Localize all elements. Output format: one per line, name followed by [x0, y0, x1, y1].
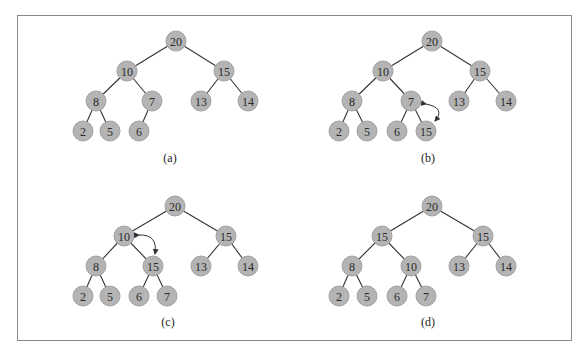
heap-node: 6 — [129, 121, 149, 141]
heap-node: 2 — [73, 121, 93, 141]
heap-node: 2 — [329, 286, 349, 306]
heap-node: 13 — [449, 91, 469, 111]
heap-node: 13 — [191, 256, 211, 276]
panel-caption: (a) — [163, 151, 176, 165]
heap-panel-a: 201015871314256(a) — [73, 31, 258, 165]
node-value: 20 — [426, 35, 438, 49]
node-value: 15 — [220, 230, 232, 244]
node-value: 15 — [474, 65, 486, 79]
node-value: 5 — [107, 290, 113, 304]
heap-node: 13 — [449, 256, 469, 276]
node-value: 10 — [377, 65, 389, 79]
heap-node: 8 — [342, 91, 362, 111]
heap-node: 15 — [143, 256, 163, 276]
panel-caption: (d) — [421, 315, 435, 329]
heap-node: 10 — [114, 226, 134, 246]
heap-node: 5 — [357, 121, 377, 141]
heap-node: 10 — [373, 61, 393, 81]
node-value: 2 — [80, 125, 86, 139]
node-value: 2 — [336, 290, 342, 304]
heap-node: 7 — [401, 91, 421, 111]
heap-panel-d: 20151581013142567(d) — [329, 196, 516, 329]
node-value: 2 — [80, 290, 86, 304]
node-value: 10 — [121, 65, 133, 79]
node-value: 14 — [500, 95, 512, 109]
heap-node: 6 — [387, 286, 407, 306]
node-value: 13 — [195, 260, 207, 274]
node-value: 15 — [477, 230, 489, 244]
node-value: 5 — [364, 290, 370, 304]
heap-node: 7 — [157, 286, 177, 306]
node-value: 13 — [453, 95, 465, 109]
node-value: 5 — [107, 125, 113, 139]
heap-node: 2 — [73, 286, 93, 306]
panel-caption: (b) — [421, 151, 435, 165]
node-value: 14 — [242, 260, 254, 274]
node-value: 7 — [408, 95, 414, 109]
node-value: 7 — [423, 290, 429, 304]
node-value: 6 — [136, 125, 142, 139]
node-value: 8 — [349, 260, 355, 274]
node-value: 7 — [164, 290, 170, 304]
heap-node: 14 — [238, 91, 258, 111]
heap-panel-b: 20101587131425615(b) — [329, 31, 516, 165]
node-value: 8 — [93, 260, 99, 274]
node-value: 20 — [169, 200, 181, 214]
swap-arrow-icon — [426, 104, 439, 121]
node-value: 10 — [405, 260, 417, 274]
node-value: 15 — [147, 260, 159, 274]
node-value: 8 — [93, 95, 99, 109]
node-value: 14 — [242, 95, 254, 109]
heap-node: 2 — [329, 121, 349, 141]
heap-node: 15 — [216, 226, 236, 246]
node-value: 15 — [376, 230, 388, 244]
node-value: 13 — [195, 95, 207, 109]
heap-node: 7 — [142, 91, 162, 111]
heap-node: 15 — [416, 121, 436, 141]
panel-caption: (c) — [161, 315, 174, 329]
node-value: 15 — [420, 125, 432, 139]
heap-node: 15 — [470, 61, 490, 81]
node-value: 7 — [149, 95, 155, 109]
heap-node: 14 — [496, 91, 516, 111]
heap-node: 6 — [129, 286, 149, 306]
heap-node: 14 — [496, 256, 516, 276]
node-value: 2 — [336, 125, 342, 139]
heap-node: 20 — [422, 31, 442, 51]
heap-node: 20 — [166, 31, 186, 51]
node-value: 5 — [364, 125, 370, 139]
node-value: 15 — [218, 65, 230, 79]
node-value: 8 — [349, 95, 355, 109]
heap-node: 20 — [165, 196, 185, 216]
heap-node: 8 — [86, 91, 106, 111]
heap-node: 13 — [191, 91, 211, 111]
heap-node: 5 — [100, 121, 120, 141]
node-value: 6 — [136, 290, 142, 304]
heap-node: 6 — [387, 121, 407, 141]
heap-node: 15 — [473, 226, 493, 246]
heap-node: 5 — [100, 286, 120, 306]
node-value: 20 — [426, 200, 438, 214]
node-value: 14 — [500, 260, 512, 274]
heap-node: 15 — [214, 61, 234, 81]
node-value: 6 — [394, 290, 400, 304]
heap-node: 10 — [117, 61, 137, 81]
heap-node: 8 — [86, 256, 106, 276]
node-value: 20 — [170, 35, 182, 49]
swap-arrow-icon — [139, 235, 155, 254]
heap-panel-c: 20101581513142567(c) — [73, 196, 258, 329]
heap-node: 15 — [372, 226, 392, 246]
heap-diagram: 201015871314256(a)20101587131425615(b)20… — [0, 0, 587, 356]
heap-node: 20 — [422, 196, 442, 216]
node-value: 6 — [394, 125, 400, 139]
heap-node: 7 — [416, 286, 436, 306]
heap-node: 8 — [342, 256, 362, 276]
node-value: 13 — [453, 260, 465, 274]
heap-node: 10 — [401, 256, 421, 276]
heap-node: 5 — [357, 286, 377, 306]
node-value: 10 — [118, 230, 130, 244]
heap-node: 14 — [238, 256, 258, 276]
